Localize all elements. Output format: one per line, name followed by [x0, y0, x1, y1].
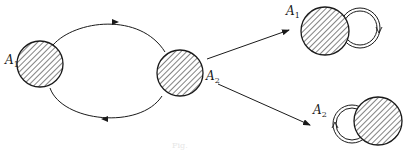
figure-caption: Fig.: [172, 141, 188, 150]
label-a2-center: A2: [205, 69, 220, 85]
orbit-arcs: [50, 19, 165, 122]
arrow-to-a1-icon: [207, 30, 289, 59]
orbit-diagram: A1 A2 A1 A2 Fig.: [0, 0, 404, 152]
body-a1-right-hatch: [301, 7, 349, 55]
label-a1-right: A1: [285, 4, 300, 20]
upper-orbit-arc: [53, 24, 165, 52]
lower-orbit-arc: [50, 88, 162, 118]
body-a2-center: [157, 50, 203, 96]
result-a1-group: A1: [285, 4, 382, 55]
label-a2-right: A2: [312, 103, 327, 119]
label-a1-left: A1: [4, 53, 19, 69]
body-a2-right-hatch: [354, 97, 402, 145]
arrow-to-a2-icon: [218, 84, 310, 125]
result-a2-group: A2: [312, 97, 402, 145]
lower-orbit-arrow-icon: [101, 116, 108, 122]
body-a1-left: [17, 41, 63, 87]
